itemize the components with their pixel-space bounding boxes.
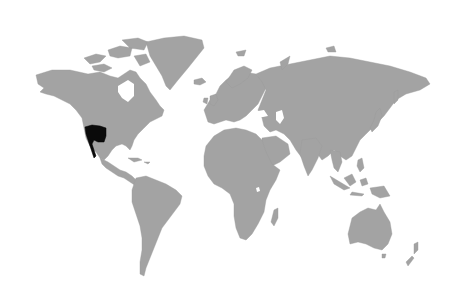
south-america	[132, 176, 182, 276]
indonesia	[330, 174, 390, 198]
india	[300, 138, 322, 176]
north-america	[36, 70, 164, 160]
sakhalin	[394, 90, 398, 104]
southeast-asia	[330, 150, 342, 172]
world-map	[0, 0, 461, 305]
australia	[348, 204, 392, 250]
tasmania	[382, 254, 386, 258]
arctic-islands	[84, 38, 150, 72]
caribbean-islands	[128, 158, 150, 164]
philippines	[357, 158, 364, 172]
iceland	[194, 78, 206, 85]
world-map-svg	[0, 0, 461, 305]
madagascar	[271, 208, 278, 226]
new-zealand	[406, 242, 418, 266]
